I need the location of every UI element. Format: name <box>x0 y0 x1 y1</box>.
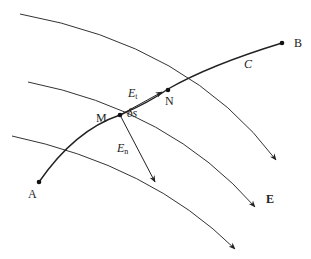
et-sub: t <box>135 92 137 101</box>
delta-s-text: δs <box>127 106 137 120</box>
point-n <box>166 88 171 93</box>
label-b: B <box>294 37 302 49</box>
label-n: N <box>165 95 174 107</box>
label-a: A <box>28 188 37 200</box>
point-b <box>280 41 285 46</box>
point-a <box>37 180 42 185</box>
field-line-1 <box>20 14 276 160</box>
point-m <box>118 113 123 118</box>
label-et: Et <box>128 87 138 101</box>
diagram-canvas <box>0 0 311 259</box>
field-line-2 <box>28 82 255 207</box>
label-path-c: C <box>244 58 252 70</box>
label-field-e: E <box>266 193 274 205</box>
label-en: En <box>117 142 128 156</box>
en-sub: n <box>124 147 128 156</box>
label-m: M <box>96 112 107 124</box>
label-delta-s: δs <box>127 107 137 119</box>
